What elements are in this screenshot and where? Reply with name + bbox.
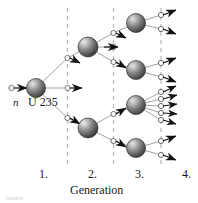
generation-tick-3: 3. <box>135 168 144 180</box>
fission-diagram: n U 235 1. 2. 3. 4. Generation FISSION <box>0 0 198 203</box>
nucleus-gen2-b <box>78 118 98 138</box>
incident-neutron-arrow <box>9 85 27 90</box>
nucleus-gen3-c <box>127 96 146 115</box>
uranium-235-label: U 235 <box>28 96 58 108</box>
nucleus-gen3-a <box>127 14 146 33</box>
neutron-track-lines <box>36 15 161 155</box>
uranium-nuclei <box>27 14 146 158</box>
generation-tick-1: 1. <box>39 168 48 180</box>
generation-tick-4: 4. <box>182 168 191 180</box>
nucleus-gen3-b <box>127 61 146 80</box>
nucleus-gen3-d <box>127 139 146 158</box>
generation-axis-title: Generation <box>70 184 123 196</box>
neutron-label: n <box>13 97 19 108</box>
generation-tick-2: 2. <box>88 168 97 180</box>
nucleus-gen2-a <box>78 37 98 57</box>
emitted-neutron-markers <box>65 12 164 157</box>
figure-footer-caption: FISSION <box>6 197 23 201</box>
